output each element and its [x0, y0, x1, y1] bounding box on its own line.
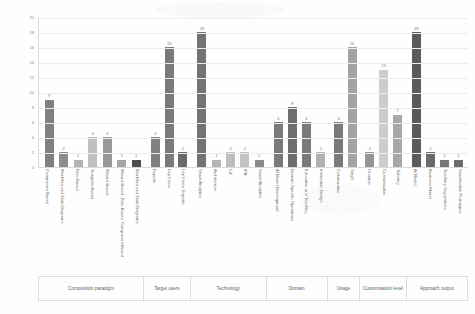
bar[interactable] — [197, 32, 206, 167]
category-slot: Creation — [362, 169, 375, 274]
bar-value-label: 4 — [106, 132, 108, 136]
bar-value-label: 2 — [244, 147, 246, 151]
category-slot: Collaborative — [331, 169, 344, 274]
bar[interactable] — [365, 152, 374, 167]
category-axis-label: Visual Analytics — [198, 169, 202, 198]
gridline — [39, 18, 468, 19]
category-axis-label: Template-Based — [90, 169, 94, 199]
gridline — [39, 153, 468, 154]
y-axis-tick-label: 10 — [30, 91, 34, 95]
y-axis-tick-label: 14 — [30, 61, 34, 65]
category-axis-label: Lay Users, Experts — [181, 169, 185, 204]
category-slot: AI Model — [408, 169, 421, 274]
bar-value-label: 2 — [62, 147, 64, 151]
y-axis: 02468101214161820 — [20, 18, 36, 168]
bar[interactable] — [212, 160, 221, 168]
group-band-bottom-rule — [38, 300, 468, 301]
category-axis-label: Domain-Specific Operations — [289, 169, 293, 221]
category-group: CollaborativeSingle — [330, 169, 361, 274]
bar[interactable] — [59, 152, 68, 167]
bar[interactable] — [74, 160, 83, 168]
bar-value-label: 1 — [443, 154, 445, 158]
category-axis-label: Rule-Based — [75, 169, 79, 191]
category-axis-label: Tailoring — [396, 169, 400, 185]
grid-area: 921441141621812216862616213718211 — [38, 18, 468, 168]
category-slot: Wizard-Based, Rule-Based, Component-Base… — [115, 169, 128, 274]
category-slot: Business Model — [423, 169, 436, 274]
category-group: AI ModelBusiness ModelTeaching Suggestio… — [407, 169, 468, 274]
bar[interactable] — [240, 152, 249, 167]
group-band: Composition paradigmTarget usersTechnolo… — [38, 276, 468, 300]
category-group: Visual AnalyticsArchitectureIoTIPAVisual… — [192, 169, 269, 274]
group-name-label: Composition paradigm — [38, 277, 144, 300]
category-labels: Component-BasedWorkflow and Data Diagram… — [38, 169, 468, 274]
bar[interactable] — [426, 152, 435, 167]
scan-artifact — [155, 2, 285, 18]
bar[interactable] — [226, 152, 235, 167]
category-slot: Rule-Based — [70, 169, 83, 274]
category-group: AI Model DevelopmentDomain-Specific Oper… — [268, 169, 329, 274]
category-slot: Wizard-Based — [100, 169, 113, 274]
category-slot: Lay Users, Experts — [177, 169, 190, 274]
category-slot: Education and Teaching — [300, 169, 313, 274]
bar[interactable] — [88, 137, 97, 167]
category-slot: Single — [346, 169, 359, 274]
bar[interactable] — [288, 107, 297, 167]
group-name-label: Approach output — [407, 277, 468, 300]
gridline — [39, 48, 468, 49]
gridline — [39, 93, 468, 94]
gridline — [39, 123, 468, 124]
bar-value-label: 7 — [396, 109, 398, 113]
bar-value-label: 16 — [350, 42, 354, 46]
bar[interactable] — [274, 122, 283, 167]
bar-value-label: 1 — [215, 154, 217, 158]
bar[interactable] — [117, 160, 126, 168]
bar-value-label: 18 — [414, 27, 418, 31]
category-axis-label: Architecture — [213, 169, 217, 191]
category-axis-label: AI Model Development — [275, 169, 279, 211]
bar-value-label: 1 — [121, 154, 123, 158]
bar-value-label: 2 — [429, 147, 431, 151]
category-axis-label: Business Model — [428, 169, 432, 199]
y-axis-tick-label: 0 — [32, 166, 34, 170]
category-group: ExpertsLay UsersLay Users, Experts — [146, 169, 192, 274]
category-axis-label: Education and Teaching — [304, 169, 308, 214]
category-slot: Template-Based — [85, 169, 98, 274]
category-axis-label: Visual Analytics — [258, 169, 262, 198]
category-axis-label: Wizard-Based, Rule-Based, Component-Base… — [120, 169, 124, 257]
bar-value-label: 1 — [135, 154, 137, 158]
bar[interactable] — [412, 32, 421, 167]
category-slot: Interaction Design — [315, 169, 328, 274]
bar[interactable] — [178, 152, 187, 167]
y-axis-tick-label: 6 — [32, 121, 34, 125]
category-slot: Lay Users — [162, 169, 175, 274]
category-slot: Tailoring — [392, 169, 405, 274]
group-name-label: Technology — [191, 277, 267, 300]
bar[interactable] — [132, 160, 141, 168]
category-slot: Workflow and Data Diagrams — [130, 169, 143, 274]
bar-value-label: 6 — [305, 117, 307, 121]
category-slot: Component-Based — [40, 169, 53, 274]
bar[interactable] — [334, 122, 343, 167]
gridline — [39, 33, 468, 34]
category-groups-row: Component-BasedWorkflow and Data Diagram… — [38, 169, 468, 274]
bar[interactable] — [348, 47, 357, 167]
bar[interactable] — [440, 160, 449, 168]
bar[interactable] — [302, 122, 311, 167]
bar[interactable] — [316, 152, 325, 167]
category-group: CreationCustomisationTailoring — [361, 169, 407, 274]
bar[interactable] — [45, 100, 54, 168]
gridline — [39, 138, 468, 139]
y-axis-tick-label: 18 — [30, 31, 34, 35]
category-axis-label: Customisation — [381, 169, 385, 196]
group-name-label: Customisation level — [360, 277, 407, 300]
bar[interactable] — [103, 137, 112, 167]
category-axis-label: Wizard-Based — [105, 169, 109, 195]
bar[interactable] — [454, 160, 463, 168]
bar-value-label: 4 — [154, 132, 156, 136]
y-axis-tick-label: 16 — [30, 46, 34, 50]
bar[interactable] — [255, 160, 264, 168]
bar[interactable] — [151, 137, 160, 167]
bar[interactable] — [165, 47, 174, 167]
category-group: Component-BasedWorkflow and Data Diagram… — [38, 169, 146, 274]
